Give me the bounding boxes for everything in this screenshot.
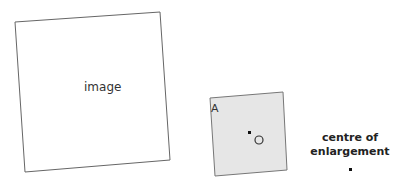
centre-label-line1: centre of xyxy=(322,131,378,144)
image-label: image xyxy=(84,80,121,94)
centre-point-marker xyxy=(248,131,251,134)
centre-label-line2: enlargement xyxy=(310,145,389,158)
vertex-label-a: A xyxy=(211,102,219,115)
centre-of-enlargement-point xyxy=(349,168,352,171)
enlargement-diagram: image A centre of enlargement xyxy=(0,0,410,184)
